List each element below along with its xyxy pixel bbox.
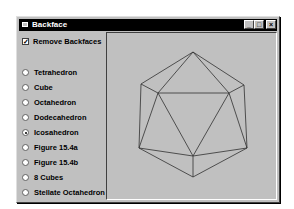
radio-label: Octahedron xyxy=(34,98,76,107)
radio-icon[interactable] xyxy=(22,69,29,76)
radio-8-cubes[interactable]: 8 Cubes xyxy=(22,173,63,182)
radio-icon[interactable] xyxy=(22,99,29,106)
radio-label: Figure 15.4a xyxy=(34,143,78,152)
radio-figure-15-4b[interactable]: Figure 15.4b xyxy=(22,158,78,167)
radio-icon[interactable] xyxy=(22,84,29,91)
checkmark-icon[interactable]: ✓ xyxy=(22,38,29,45)
radio-icon[interactable] xyxy=(22,189,29,196)
app-icon[interactable] xyxy=(22,22,28,27)
backface-window: Backface _ □ × ✓ Remove Backfaces Tetrah… xyxy=(16,16,280,203)
radio-stellate-octahedron[interactable]: Stellate Octahedron xyxy=(22,188,105,197)
title-bar[interactable]: Backface _ □ × xyxy=(19,19,277,31)
radio-label: Icosahedron xyxy=(34,128,79,137)
radio-icon[interactable] xyxy=(22,174,29,181)
minimize-button[interactable]: _ xyxy=(244,20,254,29)
maximize-button[interactable]: □ xyxy=(254,20,264,29)
radio-icon[interactable] xyxy=(22,159,29,166)
radio-figure-15-4a[interactable]: Figure 15.4a xyxy=(22,143,78,152)
close-button[interactable]: × xyxy=(266,20,276,29)
radio-label: Dodecahedron xyxy=(34,113,87,122)
drawing-canvas[interactable] xyxy=(106,32,277,200)
radio-label: 8 Cubes xyxy=(34,173,63,182)
radio-octahedron[interactable]: Octahedron xyxy=(22,98,76,107)
radio-cube[interactable]: Cube xyxy=(22,83,53,92)
icosahedron-wireframe xyxy=(107,33,279,203)
radio-label: Figure 15.4b xyxy=(34,158,78,167)
remove-backfaces-checkbox[interactable]: ✓ Remove Backfaces xyxy=(22,37,101,46)
radio-icon[interactable] xyxy=(22,114,29,121)
radio-selected-icon[interactable] xyxy=(22,129,29,136)
radio-tetrahedron[interactable]: Tetrahedron xyxy=(22,68,77,77)
window-title: Backface xyxy=(32,19,67,31)
radio-label: Tetrahedron xyxy=(34,68,77,77)
options-panel: ✓ Remove Backfaces Tetrahedron Cube Octa… xyxy=(19,32,107,200)
radio-label: Stellate Octahedron xyxy=(34,188,105,197)
radio-dodecahedron[interactable]: Dodecahedron xyxy=(22,113,87,122)
remove-backfaces-label: Remove Backfaces xyxy=(33,37,101,46)
radio-icosahedron[interactable]: Icosahedron xyxy=(22,128,79,137)
radio-icon[interactable] xyxy=(22,144,29,151)
radio-label: Cube xyxy=(34,83,53,92)
